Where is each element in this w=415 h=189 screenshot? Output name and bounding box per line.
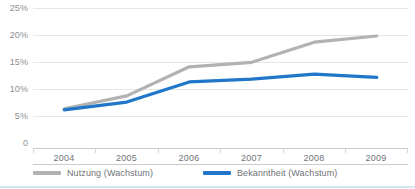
series-lines [33,8,408,148]
y-tick-label-5: 5% [0,112,28,121]
y-tick-label-20: 20% [0,31,28,40]
x-tick-label-2005: 2005 [95,153,158,163]
legend-label-bekanntheit: Bekanntheit (Wachstum) [237,168,337,178]
x-tick-label-2009: 2009 [345,153,407,163]
y-tick-label-25: 25% [0,4,28,13]
legend-color-swatch-gray [33,171,61,175]
chart-legend: Nutzung (Wachstum) Bekanntheit (Wachstum… [0,166,415,180]
series-line-nutzung [64,36,377,109]
x-tick-label-2006: 2006 [158,153,220,163]
y-tick-label-15: 15% [0,58,28,67]
series-line-bekanntheit [64,74,377,110]
legend-item-bekanntheit[interactable]: Bekanntheit (Wachstum) [203,166,337,180]
legend-label-nutzung: Nutzung (Wachstum) [67,168,153,178]
y-tick-label-0: 0 [0,139,28,148]
bottom-divider [0,186,415,188]
legend-color-swatch-blue [203,171,231,175]
legend-item-nutzung[interactable]: Nutzung (Wachstum) [33,166,153,180]
line-chart: 25% 20% 15% 10% 5% 0 2004 2005 2006 2007… [0,0,415,189]
x-tick-label-2007: 2007 [220,153,283,163]
x-tick-label-2008: 2008 [283,153,345,163]
x-tick-mark [407,149,408,153]
x-tick-label-2004: 2004 [33,153,95,163]
y-tick-label-10: 10% [0,85,28,94]
x-axis-baseline-rule [33,164,408,165]
plot-area [33,8,408,148]
